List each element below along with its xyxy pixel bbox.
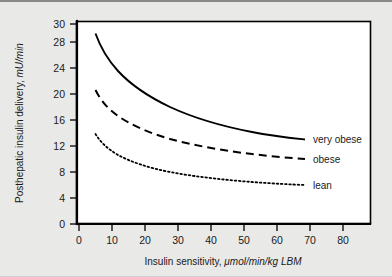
y-axis-title: Posthepatic insulin delivery, mU/min (14, 43, 25, 203)
y-tick-label-20: 20 (53, 88, 65, 100)
x-tick-label-50: 50 (238, 234, 250, 246)
x-tick-label-80: 80 (337, 234, 349, 246)
x-axis-tick-labels: 0 10 20 30 40 50 60 70 80 (76, 234, 349, 246)
x-tick-label-10: 10 (106, 234, 118, 246)
y-axis-title-main: Posthepatic insulin delivery, (14, 78, 25, 203)
y-axis-tick-labels: 30 28 24 20 16 12 8 4 0 (53, 18, 65, 230)
series-label-very-obese: very obese (313, 134, 362, 145)
plot-area-frame (77, 22, 371, 224)
figure-panel: 30 28 24 20 16 12 8 4 0 (0, 0, 392, 277)
x-tick-label-0: 0 (76, 234, 82, 246)
x-axis-title-main: Insulin sensitivity, (144, 256, 224, 267)
y-tick-label-4: 4 (59, 192, 65, 204)
x-tick-label-40: 40 (205, 234, 217, 246)
y-tick-label-30: 30 (53, 18, 65, 30)
x-axis-title-unit: μmol/min/kg LBM (223, 256, 302, 267)
y-tick-label-12: 12 (53, 140, 65, 152)
series-label-lean: lean (313, 180, 332, 191)
series-label-obese: obese (313, 154, 341, 165)
x-tick-label-70: 70 (304, 234, 316, 246)
y-tick-label-24: 24 (53, 62, 65, 74)
y-tick-label-28: 28 (53, 36, 65, 48)
y-axis: 30 28 24 20 16 12 8 4 0 (53, 18, 77, 230)
x-axis: 0 10 20 30 40 50 60 70 80 (76, 224, 370, 246)
y-tick-label-8: 8 (59, 166, 65, 178)
y-axis-title-unit: mU/min (14, 43, 25, 78)
x-tick-label-60: 60 (271, 234, 283, 246)
insulin-delivery-line-chart: 30 28 24 20 16 12 8 4 0 (0, 2, 392, 277)
x-axis-title: Insulin sensitivity, μmol/min/kg LBM (144, 256, 302, 267)
y-tick-label-0: 0 (59, 218, 65, 230)
y-tick-label-16: 16 (53, 114, 65, 126)
x-tick-label-20: 20 (139, 234, 151, 246)
x-tick-label-30: 30 (172, 234, 184, 246)
